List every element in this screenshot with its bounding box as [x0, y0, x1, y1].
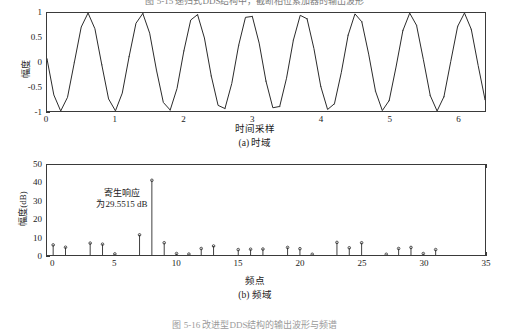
figure-b-x-tick-mark	[486, 164, 487, 168]
figure-b-annotation-line-1: 寄生响应	[62, 188, 182, 199]
figure-b-annotation: 寄生响应 为29.5515 dB	[62, 188, 182, 210]
figure-b-y-tick-label: 30	[33, 196, 42, 205]
figure-b-x-tick-label: 10	[172, 259, 181, 268]
figure-b-x-tick-label: 35	[482, 259, 491, 268]
figure-a-waveform	[47, 13, 485, 111]
figure-b-y-tick-label: 40	[33, 178, 42, 187]
figure-b-frequency-domain: 幅度(dB) 01020304050 05101520253035 寄生响应 为…	[0, 160, 510, 320]
figure-b-y-tick-label: 50	[33, 160, 42, 169]
figure-a-time-domain: 幅度 10.50-0.5-1 0123456 时间采样 (a) 时域	[0, 8, 510, 156]
figure-b-y-tick-label: 0	[38, 252, 43, 261]
figure-a-caption: (a) 时域	[0, 135, 510, 149]
figure-a-plot-area	[46, 12, 486, 112]
bottom-caption-fragment: 图 5-16 改进型DDS结构的输出波形与频谱	[0, 318, 510, 330]
figure-b-y-tick-mark	[46, 256, 50, 257]
figure-b-x-axis-label: 频点	[0, 273, 510, 287]
figure-b-y-tick-label: 10	[33, 233, 42, 242]
figure-b-x-tick-label: 25	[358, 259, 367, 268]
figure-b-x-tick-label: 0	[50, 259, 55, 268]
figure-b-x-tick-label: 5	[112, 259, 117, 268]
figure-b-x-tick-label: 15	[234, 259, 243, 268]
figure-a-y-tick-mark	[46, 112, 50, 113]
figure-b-x-tick-label: 20	[296, 259, 305, 268]
figure-b-y-tick-label: 20	[33, 215, 42, 224]
top-caption-fragment: 图 5-15 递归式DDS结构中，截断相位累加器的输出波形	[0, 0, 510, 6]
figure-a-x-axis-label: 时间采样	[0, 121, 510, 135]
figure-b-stem-plot	[47, 165, 485, 255]
figure-b-x-tick-mark	[486, 252, 487, 256]
figure-a-y-tick-label: 1	[38, 8, 43, 17]
figure-b-caption: (b) 频域	[0, 287, 510, 301]
figure-a-y-tick-label: 0	[38, 58, 43, 67]
figure-a-y-tick-label: 0.5	[31, 33, 42, 42]
figure-a-y-tick-label: -1	[35, 108, 43, 117]
figure-b-y-axis-label: 幅度(dB)	[16, 171, 29, 247]
figure-a-y-tick-label: -0.5	[28, 83, 42, 92]
figure-b-plot-area	[46, 164, 486, 256]
figure-b-x-tick-label: 30	[420, 259, 429, 268]
figure-b-annotation-line-2: 为29.5515 dB	[62, 199, 182, 210]
